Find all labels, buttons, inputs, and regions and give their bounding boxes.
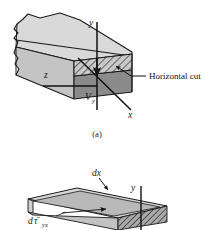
- shear-stress-leader: [56, 212, 66, 216]
- shear-stress-subscript: yx: [41, 221, 48, 228]
- panel-b: dx y d τ̄ yx: [28, 168, 167, 230]
- axis-y-label: y: [88, 18, 94, 28]
- dx-leader: [99, 178, 108, 190]
- beam-shear-figure: y z x V y Horizontal cut (a): [0, 0, 214, 230]
- panel-a-caption: (a): [92, 129, 102, 139]
- panel-b-axis-y-label: y: [130, 183, 136, 193]
- dx-label: dx: [92, 168, 102, 178]
- axis-z-label: z: [43, 70, 48, 80]
- shear-stress-tau: τ̄: [34, 216, 40, 226]
- figure-root: y z x V y Horizontal cut (a): [0, 0, 214, 230]
- axis-x-label: x: [127, 110, 133, 120]
- horizontal-cut-label: Horizontal cut: [149, 71, 201, 81]
- shear-stress-label: d τ̄ yx: [28, 216, 48, 228]
- panel-a: y z x V y Horizontal cut (a): [14, 13, 201, 139]
- shear-force-subscript: y: [91, 97, 96, 105]
- shear-stress-d: d: [28, 216, 33, 226]
